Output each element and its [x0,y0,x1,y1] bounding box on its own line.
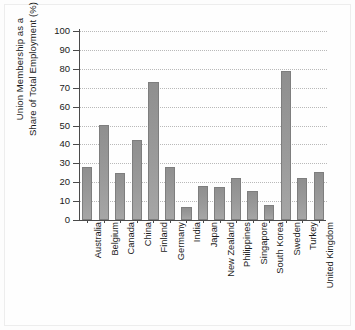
x-axis-tick-label: Philippines [240,222,254,322]
bar [214,187,224,220]
x-axis-tick-label: Germany [174,222,188,322]
y-axis-tick-label: 100 [46,25,70,36]
x-axis-tick-label: Singapore [257,222,271,322]
x-axis-tick-label: New Zealand [224,222,238,322]
x-axis-tick-labels: AustraliaBelgiumCanadaChinaFinlandGerman… [79,222,327,328]
x-axis-tick-label: China [141,222,155,322]
bar [165,167,175,220]
y-axis-tick-label: 0 [46,214,70,225]
x-axis-tick-label: Canada [124,222,138,322]
y-axis-tick-labels: 0102030405060708090100 [46,0,70,330]
bar [132,140,142,220]
x-axis-tick-label: Turkey [306,222,320,322]
x-axis-tick-label: Sweden [290,222,304,322]
bar-fill [182,208,190,219]
bar [115,173,125,220]
y-axis-tick-label: 30 [46,157,70,168]
bar [181,207,191,220]
bar-fill [215,188,223,219]
bar [314,172,324,220]
chart-figure: Union Membership as a Share of Total Emp… [0,0,355,330]
bar [264,205,274,220]
bar-fill [315,173,323,219]
bar [82,167,92,220]
y-axis-tick-label: 70 [46,82,70,93]
x-axis-tick-label: Japan [207,222,221,322]
y-axis-tick-label: 90 [46,44,70,55]
bar [148,82,158,220]
bar-fill [166,168,174,219]
bar-fill [232,179,240,219]
bar [231,178,241,220]
y-axis-title: Union Membership as a Share of Total Emp… [13,0,47,159]
bar [281,71,291,220]
bar-series [79,31,327,220]
x-axis-tick-label: Australia [91,222,105,322]
bar [247,191,257,220]
bar-fill [199,187,207,219]
y-axis-tick-label: 40 [46,138,70,149]
bar [198,186,208,220]
y-axis-title-line-2: Share of Total Employment (%) [26,0,39,159]
y-axis-tick-label: 10 [46,195,70,206]
bar-fill [149,83,157,219]
y-axis-tick-label: 50 [46,120,70,131]
y-axis-title-line-1: Union Membership as a [13,0,26,159]
y-axis-tick-label: 60 [46,101,70,112]
y-axis-tick-label: 20 [46,176,70,187]
bar-fill [133,141,141,219]
x-axis-tick-label: South Korea [273,222,287,322]
bar-fill [100,126,108,219]
x-axis-tick-label: Belgium [108,222,122,322]
bar-fill [265,206,273,219]
bar-fill [248,192,256,219]
x-axis-tick-label: Finland [157,222,171,322]
y-axis-tick-label: 80 [46,63,70,74]
bar [297,178,307,220]
bar-fill [298,179,306,219]
bar-fill [282,72,290,219]
bar-fill [83,168,91,219]
x-axis-tick-label: India [190,222,204,322]
x-axis-tick-label: United Kingdom [323,222,337,322]
bar [99,125,109,220]
bar-fill [116,174,124,219]
